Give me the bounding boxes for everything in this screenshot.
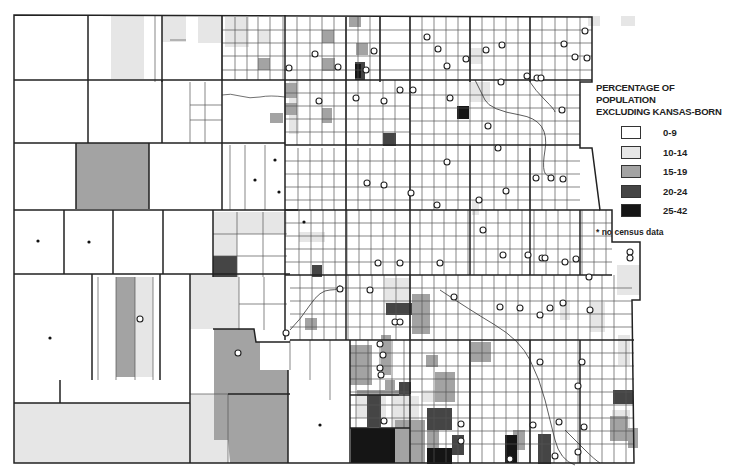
map-legend: PERCENTAGE OF POPULATION EXCLUDING KANSA…: [596, 82, 734, 237]
legend-swatch-light: [621, 146, 641, 159]
legend-swatch-white: [621, 126, 641, 139]
legend-item-10-14: 10-14: [621, 143, 734, 163]
legend-label: 10-14: [663, 147, 687, 158]
legend-label: 0-9: [663, 127, 677, 138]
rivers: [290, 80, 600, 465]
legend-item-25-42: 25-42: [621, 201, 734, 221]
legend-label: 20-24: [663, 186, 687, 197]
legend-swatch-medium: [621, 165, 641, 178]
legend-label: 15-19: [663, 166, 687, 177]
legend-swatch-dark: [621, 185, 641, 198]
legend-label: 25-42: [663, 205, 687, 216]
legend-item-15-19: 15-19: [621, 162, 734, 182]
legend-item-20-24: 20-24: [621, 182, 734, 202]
legend-swatch-black: [621, 204, 641, 217]
no-census-data-note: * no census data: [596, 227, 734, 237]
legend-title-line1: PERCENTAGE OF POPULATION: [596, 82, 734, 106]
kansas-choropleth-map: [0, 0, 734, 473]
legend-title-line2: EXCLUDING KANSAS-BORN: [596, 106, 734, 118]
legend-item-0-9: 0-9: [621, 123, 734, 143]
